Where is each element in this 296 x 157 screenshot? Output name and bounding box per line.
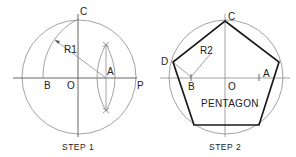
step1-label-o: O (67, 80, 75, 91)
step1-circle (22, 20, 136, 134)
step2-label-b: B (188, 81, 195, 92)
step2-shape-label: PENTAGON (201, 98, 259, 109)
step1-label-r1: R1 (64, 44, 77, 55)
step1-caption: STEP 1 (62, 142, 94, 152)
step1-label-b: B (44, 80, 51, 91)
step1-label-c: C (80, 6, 87, 17)
step1-bisector-arc-right (106, 44, 115, 111)
step1-label-p: P (137, 80, 144, 91)
step2-label-a: A (263, 68, 270, 79)
step2-drawing: C D R2 A B O PENTAGON STEP 2 (160, 11, 290, 152)
step1-label-a: A (107, 66, 114, 77)
step2-label-o: O (228, 81, 236, 92)
step2-caption: STEP 2 (209, 142, 241, 152)
step1-drawing: C R1 A B O P STEP 1 (13, 6, 144, 152)
step2-label-c: C (228, 11, 235, 22)
step1-r1-radius-line (55, 40, 106, 78)
step1-bisector-arc-left (97, 44, 106, 111)
step2-label-r2: R2 (200, 45, 213, 56)
step2-label-d: D (161, 56, 168, 67)
pentagon-construction-diagram: C R1 A B O P STEP 1 C D R2 A B O PENTAGO… (0, 0, 296, 157)
